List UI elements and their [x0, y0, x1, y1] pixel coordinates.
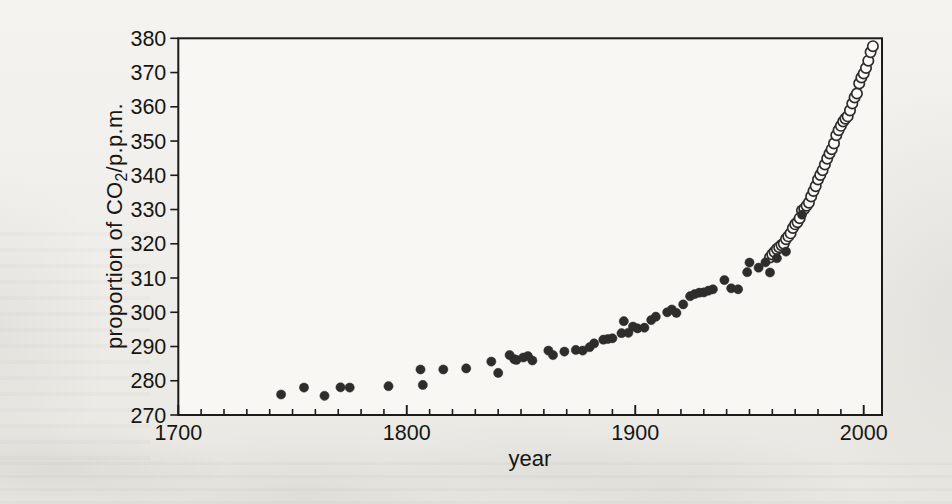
y-tick-label: 320: [130, 232, 166, 256]
y-tick-label: 290: [130, 335, 166, 359]
ice-core-data-point: [608, 334, 617, 343]
mauna-loa-data-point: [868, 41, 878, 51]
ice-core-data-point: [345, 383, 354, 392]
ice-core-data-point: [772, 254, 781, 263]
y-tick-label: 370: [130, 61, 166, 85]
y-axis-title-subscript: 2: [113, 172, 130, 181]
ice-core-data-point: [418, 380, 427, 389]
ice-core-data-point: [679, 300, 688, 309]
ice-core-data-point: [299, 383, 308, 392]
ice-core-data-point: [439, 365, 448, 374]
y-tick-label: 380: [130, 27, 166, 51]
ice-core-data-point: [765, 268, 774, 277]
ice-core-data-point: [781, 247, 790, 256]
ice-core-data-point: [708, 285, 717, 294]
ice-core-data-point: [528, 356, 537, 365]
y-tick-label: 280: [130, 369, 166, 393]
ice-core-data-point: [797, 210, 806, 219]
y-tick-label: 300: [130, 301, 166, 325]
ice-core-data-point: [734, 285, 743, 294]
y-tick-label: 360: [130, 95, 166, 119]
y-tick-label: 310: [130, 267, 166, 291]
y-tick-label: 350: [130, 130, 166, 154]
x-tick-label: 1900: [611, 421, 659, 445]
co2-scatter-plot: 1700180019002000270280290300310320330340…: [0, 0, 952, 504]
y-tick-label: 330: [130, 198, 166, 222]
y-tick-label: 340: [130, 164, 166, 188]
ice-core-data-point: [487, 357, 496, 366]
mauna-loa-data-point: [852, 88, 862, 98]
ice-core-data-point: [320, 391, 329, 400]
ice-core-data-point: [560, 347, 569, 356]
y-axis-title: proportion of CO2/p.p.m.: [102, 66, 132, 386]
ice-core-data-point: [672, 308, 681, 317]
ice-core-data-point: [619, 317, 628, 326]
ice-core-data-point: [743, 268, 752, 277]
ice-core-data-point: [462, 364, 471, 373]
x-axis-title: year: [430, 446, 630, 472]
y-tick-label: 270: [130, 404, 166, 428]
ice-core-data-point: [336, 383, 345, 392]
ice-core-data-point: [651, 312, 660, 321]
ice-core-data-point: [384, 382, 393, 391]
x-tick-label: 2000: [840, 421, 888, 445]
ice-core-data-point: [277, 390, 286, 399]
ice-core-data-point: [416, 365, 425, 374]
ice-core-data-point: [548, 351, 557, 360]
ice-core-data-point: [745, 258, 754, 267]
ice-core-data-point: [494, 368, 503, 377]
ice-core-data-point: [761, 258, 770, 267]
ice-core-data-point: [720, 276, 729, 285]
ice-core-data-point: [640, 323, 649, 332]
ice-core-data-point: [590, 339, 599, 348]
scanned-page: 1700180019002000270280290300310320330340…: [0, 0, 952, 504]
x-tick-label: 1800: [383, 421, 431, 445]
y-axis-title-units: /p.p.m.: [102, 103, 127, 172]
y-axis-title-text: proportion of CO: [102, 182, 127, 349]
